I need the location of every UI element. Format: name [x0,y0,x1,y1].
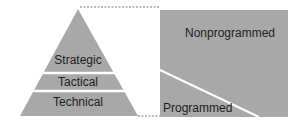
level-strategic: Strategic [54,53,101,67]
level-technical: Technical [53,95,103,109]
label-programmed: Programmed [163,101,232,115]
decision-type-box: Nonprogrammed Programmed [160,10,288,117]
level-tactical: Tactical [58,75,98,89]
pyramid: Strategic Tactical Technical [20,9,138,116]
label-nonprogrammed: Nonprogrammed [185,26,275,40]
decision-diagram: Strategic Tactical Technical Nonprogramm… [0,0,301,122]
